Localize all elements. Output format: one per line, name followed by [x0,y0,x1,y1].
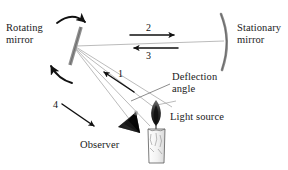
ray-fan-upper [76,47,172,107]
deflection-angle-leader-line [131,84,170,101]
rotation-arrow-clockwise-icon [57,17,85,23]
ray-fan-lower [76,49,150,126]
ray-number-2: 2 [146,22,151,33]
optics-diagram-figure: Rotating mirror Stationary mirror Deflec… [0,0,288,170]
curved-mirror-icon [221,14,227,70]
candle-icon [148,100,165,163]
label-rotating-mirror: Rotating mirror [6,22,43,45]
observer-eye-icon [118,110,140,133]
rotation-arrow-counterclockwise-icon [51,66,72,83]
label-light-source: Light source [170,111,224,123]
ray-to-stationary-mirror [76,41,224,46]
ray-number-1: 1 [118,68,123,79]
label-observer: Observer [80,139,119,151]
label-deflection-angle: Deflection angle [172,71,217,94]
ray-number-4: 4 [53,99,58,110]
ray-number-3: 3 [146,50,151,61]
direction-arrow-4 [62,104,94,126]
label-stationary-mirror: Stationary mirror [237,22,281,45]
